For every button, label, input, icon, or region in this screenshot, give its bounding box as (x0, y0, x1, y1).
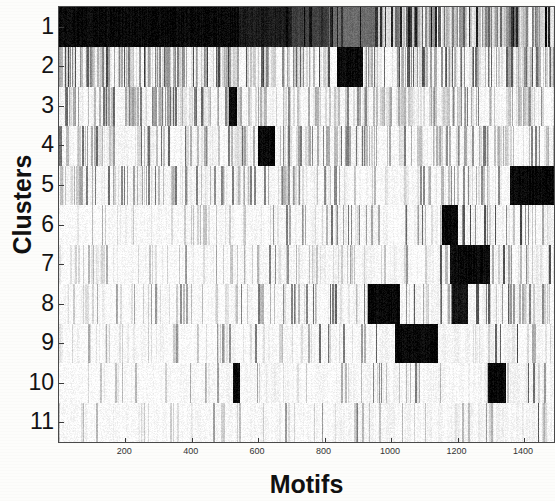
y-tick-label-5: 5 (16, 172, 54, 195)
y-tick-label-4: 4 (16, 133, 54, 156)
heatmap-canvas (59, 7, 554, 442)
x-tick-mark-200 (125, 438, 126, 442)
y-tick-mark-8 (59, 304, 64, 305)
heatmap-figure: Clusters 1234567891011 20040060080010001… (0, 0, 555, 501)
y-tick-mark-9 (59, 343, 64, 344)
y-tick-label-10: 10 (16, 370, 54, 393)
x-tick-label-800: 800 (316, 446, 331, 456)
x-tick-label-400: 400 (183, 446, 198, 456)
x-axis-title: Motifs (58, 470, 555, 499)
y-tick-label-7: 7 (16, 252, 54, 275)
x-tick-label-1200: 1200 (447, 446, 467, 456)
y-tick-mark-1 (59, 27, 64, 28)
y-tick-mark-10 (59, 383, 64, 384)
y-tick-label-6: 6 (16, 212, 54, 235)
y-axis-tick-labels: 1234567891011 (16, 6, 54, 443)
x-axis-tick-labels: 200400600800100012001400 (58, 446, 555, 464)
y-tick-mark-3 (59, 106, 64, 107)
y-tick-mark-6 (59, 225, 64, 226)
y-tick-label-2: 2 (16, 54, 54, 77)
x-tick-mark-1200 (458, 438, 459, 442)
y-tick-label-11: 11 (16, 410, 54, 433)
x-tick-label-1000: 1000 (380, 446, 400, 456)
x-tick-label-600: 600 (250, 446, 265, 456)
y-tick-mark-4 (59, 145, 64, 146)
x-tick-label-1400: 1400 (513, 446, 533, 456)
x-tick-mark-800 (325, 438, 326, 442)
y-tick-mark-7 (59, 264, 64, 265)
x-tick-mark-1000 (391, 438, 392, 442)
x-tick-mark-600 (258, 438, 259, 442)
y-tick-label-8: 8 (16, 291, 54, 314)
y-tick-label-9: 9 (16, 331, 54, 354)
x-tick-mark-400 (192, 438, 193, 442)
heatmap-plot-area[interactable] (58, 6, 555, 443)
y-tick-label-3: 3 (16, 93, 54, 116)
y-tick-mark-2 (59, 66, 64, 67)
y-tick-label-1: 1 (16, 14, 54, 37)
x-tick-label-200: 200 (117, 446, 132, 456)
y-tick-mark-5 (59, 185, 64, 186)
x-tick-mark-1400 (524, 438, 525, 442)
y-tick-mark-11 (59, 422, 64, 423)
